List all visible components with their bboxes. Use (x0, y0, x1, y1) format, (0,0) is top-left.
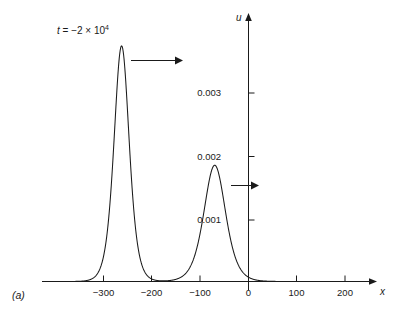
x-axis (42, 276, 377, 285)
y-tick-label-0.003: 0.003 (183, 88, 221, 98)
y-axis-arrowhead (245, 13, 252, 21)
y-axis-label: u (236, 13, 242, 23)
panel-label: (a) (12, 290, 25, 301)
propagation-arrow-small-soliton (231, 182, 259, 190)
time-annotation: t = −2 × 104 (57, 26, 109, 36)
y-tick-label-0.002: 0.002 (183, 152, 221, 162)
time-annotation-value: = −2 × 10 (60, 25, 105, 36)
y-axis (245, 13, 254, 290)
soliton-curve (46, 46, 372, 282)
large-arrow-head (175, 57, 183, 65)
x-axis-ticks (104, 276, 346, 282)
x-tick-label-200: 200 (315, 288, 375, 298)
x-axis-label: x (380, 287, 385, 297)
small-arrow-head (251, 182, 259, 190)
y-axis-ticks (249, 93, 255, 220)
propagation-arrow-large-soliton (131, 57, 183, 65)
y-tick-label-0.001: 0.001 (183, 215, 221, 225)
figure-panel-a: 0.003 0.002 0.001 −300 −200 −100 0 100 2… (0, 0, 398, 316)
time-annotation-exponent: 4 (105, 24, 109, 31)
